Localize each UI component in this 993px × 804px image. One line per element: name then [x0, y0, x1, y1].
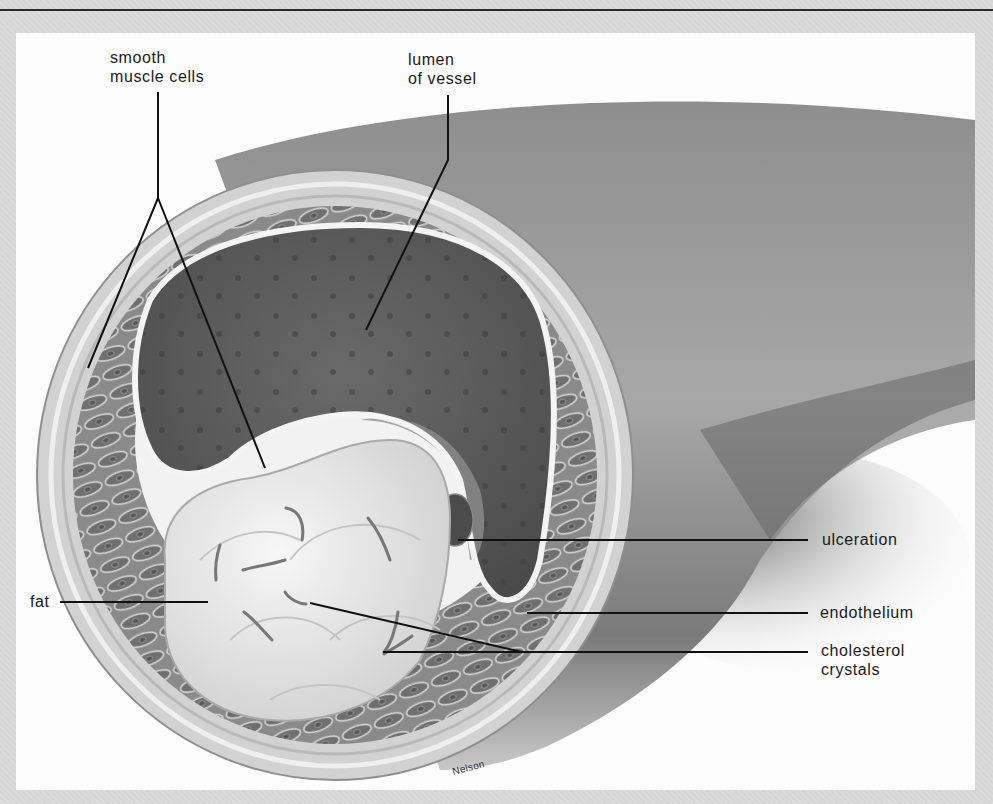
label-endothelium: endothelium	[820, 603, 914, 623]
top-border-rule	[0, 9, 993, 11]
label-cholesterol-line1: cholesterol	[821, 641, 905, 661]
label-cholesterol-line2: crystals	[821, 660, 880, 680]
label-fat: fat	[30, 592, 50, 612]
label-smooth-muscle-line1: smooth	[110, 48, 166, 68]
label-ulceration: ulceration	[822, 530, 897, 550]
label-smooth-muscle-line2: muscle cells	[110, 67, 204, 87]
label-lumen-line1: lumen	[408, 50, 455, 70]
label-lumen-line2: of vessel	[408, 69, 477, 89]
